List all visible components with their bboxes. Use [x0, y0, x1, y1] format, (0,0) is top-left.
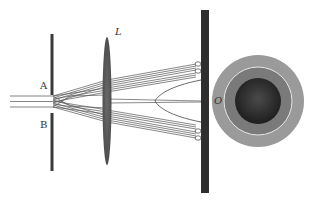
slit-barrier [51, 34, 54, 171]
converging-lens [103, 37, 112, 165]
incident-beam [10, 96, 53, 107]
diagram-canvas [0, 0, 314, 201]
double-slit-diagram: A B L O [0, 0, 314, 201]
interference-pattern [212, 55, 304, 147]
barrier-lower [51, 113, 54, 171]
slit-b-label: B [40, 120, 47, 130]
disc-core [235, 78, 281, 124]
diffracted-rays [53, 64, 201, 138]
lens-label: L [115, 27, 122, 37]
screen [201, 10, 209, 193]
slit-a-label: A [40, 81, 47, 91]
center-point-label: O [214, 96, 222, 106]
barrier-upper [51, 34, 54, 95]
